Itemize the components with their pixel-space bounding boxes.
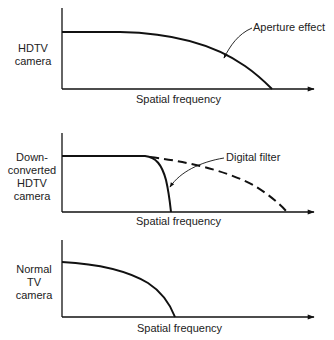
y-label-line: HDTV — [6, 42, 60, 55]
y-label-line: Normal — [8, 263, 60, 276]
y-label-line: converted — [4, 164, 60, 177]
response-curve — [62, 32, 272, 89]
x-label: Spatial frequency — [137, 322, 222, 334]
x-label: Spatial frequency — [136, 93, 221, 105]
y-label-hdtv: HDTV camera — [6, 42, 60, 68]
y-label-line: Down- — [4, 151, 60, 164]
y-label-line: camera — [4, 190, 60, 203]
y-label-downconverted: Down- converted HDTV camera — [4, 151, 60, 203]
annotation-leader — [224, 28, 252, 58]
panel-normal-tv — [62, 240, 314, 317]
y-label-normal-tv: Normal TV camera — [8, 263, 60, 302]
aperture-effect-annotation: Aperture effect — [253, 21, 325, 33]
digital-filter-annotation: Digital filter — [226, 151, 280, 163]
y-label-line: camera — [8, 289, 60, 302]
y-label-line: TV — [8, 276, 60, 289]
panel-downconverted — [62, 133, 314, 212]
y-label-line: HDTV — [4, 177, 60, 190]
annotation-leader — [170, 158, 224, 187]
y-label-line: camera — [6, 55, 60, 68]
response-curve — [62, 262, 175, 317]
x-label: Spatial frequency — [136, 215, 221, 227]
digital-filter-curve — [62, 156, 171, 212]
